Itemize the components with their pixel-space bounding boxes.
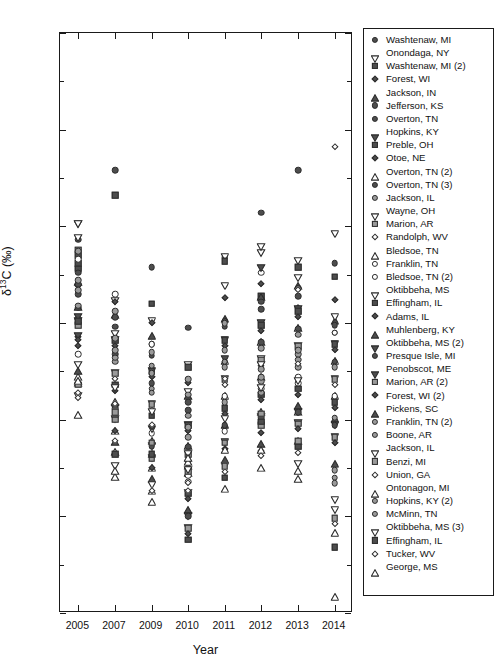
legend-item[interactable]: Marion, AR (2) bbox=[364, 376, 495, 389]
data-point bbox=[74, 228, 83, 237]
legend-marker bbox=[364, 376, 386, 389]
data-point bbox=[331, 467, 338, 474]
marker-triangle-down-icon bbox=[371, 444, 379, 452]
legend-item[interactable]: Tucker, WV bbox=[364, 547, 495, 560]
data-point bbox=[257, 458, 266, 467]
legend-item[interactable]: Benzi, MI bbox=[364, 455, 495, 468]
y-tick-major bbox=[60, 420, 66, 421]
legend-marker bbox=[364, 244, 386, 257]
y-tick-major bbox=[60, 226, 66, 227]
marker-triangle-down-icon bbox=[371, 339, 379, 347]
data-point bbox=[112, 314, 119, 321]
legend-item[interactable]: Randolph, WV bbox=[364, 231, 495, 244]
marker-triangle-up-icon bbox=[371, 563, 379, 571]
legend-label: Jefferson, KS bbox=[386, 101, 443, 111]
legend-label: Muhlenberg, KY bbox=[386, 325, 455, 335]
marker-square-icon bbox=[372, 379, 378, 385]
legend-item[interactable]: Washtenaw, MI bbox=[364, 33, 495, 46]
legend-item[interactable]: Forest, WI (2) bbox=[364, 389, 495, 402]
legend-item[interactable]: Washtenaw, MI (2) bbox=[364, 59, 495, 72]
legend-marker bbox=[364, 46, 386, 59]
legend-item[interactable]: Pickens, SC bbox=[364, 402, 495, 415]
data-point bbox=[331, 322, 338, 329]
data-point bbox=[184, 448, 193, 457]
y-tick-minor bbox=[60, 565, 64, 566]
legend-item[interactable]: Franklin, TN (2) bbox=[364, 415, 495, 428]
legend-item[interactable]: Presque Isle, MI bbox=[364, 349, 495, 362]
legend-marker bbox=[364, 165, 386, 178]
marker-circle-icon bbox=[372, 181, 378, 187]
data-point bbox=[185, 536, 192, 543]
legend-item[interactable]: Oktibbeha, MS (2) bbox=[364, 336, 495, 349]
legend-item[interactable]: McMinn, TN bbox=[364, 507, 495, 520]
data-point bbox=[257, 379, 266, 388]
legend-item[interactable]: Jackson, IL bbox=[364, 191, 495, 204]
legend-marker bbox=[364, 191, 386, 204]
y-axis-title-delta: δ bbox=[0, 289, 14, 296]
legend-item[interactable]: Effingham, IL bbox=[364, 534, 495, 547]
legend-item[interactable]: Oktibbeha, MS bbox=[364, 283, 495, 296]
legend-item[interactable]: Marion, AR bbox=[364, 218, 495, 231]
legend-item[interactable]: Adams, IL bbox=[364, 310, 495, 323]
legend-item[interactable]: Muhlenberg, KY bbox=[364, 323, 495, 336]
data-point bbox=[75, 277, 82, 284]
marker-triangle-down-icon bbox=[371, 207, 379, 215]
legend-item[interactable]: Bledsoe, TN bbox=[364, 244, 495, 257]
legend-item[interactable]: Boone, AR bbox=[364, 428, 495, 441]
legend-item[interactable]: Oktibbeha, MS (3) bbox=[364, 521, 495, 534]
x-tick-top bbox=[78, 33, 79, 39]
legend-label: Ontonagon, MI bbox=[386, 483, 449, 493]
data-point bbox=[221, 276, 230, 285]
y-tick-major-right bbox=[345, 323, 351, 324]
legend-item[interactable]: Overton, TN bbox=[364, 112, 495, 125]
x-tick-top bbox=[225, 33, 226, 39]
legend-item[interactable]: Hopkins, KY (2) bbox=[364, 494, 495, 507]
data-point bbox=[75, 248, 82, 255]
legend-label: Wayne, OH bbox=[386, 206, 435, 216]
legend-label: Effingham, IL bbox=[386, 298, 442, 308]
legend-item[interactable]: George, MS bbox=[364, 560, 495, 573]
legend-label: Overton, TN (3) bbox=[386, 180, 452, 190]
legend-marker bbox=[364, 534, 386, 547]
legend-item[interactable]: Wayne, OH bbox=[364, 204, 495, 217]
y-axis-title-superscript: 13 bbox=[0, 280, 8, 289]
data-point bbox=[185, 325, 192, 332]
legend-item[interactable]: Jefferson, KS bbox=[364, 99, 495, 112]
legend-label: Preble, OH bbox=[386, 140, 433, 150]
data-point bbox=[147, 493, 156, 502]
legend-item[interactable]: Onondaga, NY bbox=[364, 46, 495, 59]
legend-item[interactable]: Otoe, NE bbox=[364, 152, 495, 165]
legend-item[interactable]: Penobscot, ME bbox=[364, 363, 495, 376]
data-point bbox=[222, 358, 229, 365]
legend-item[interactable]: Overton, TN (2) bbox=[364, 165, 495, 178]
x-tick bbox=[78, 605, 79, 611]
legend-item[interactable]: Effingham, IL bbox=[364, 297, 495, 310]
data-point bbox=[258, 306, 265, 313]
legend-item[interactable]: Forest, WI bbox=[364, 73, 495, 86]
legend-item[interactable]: Franklin, TN bbox=[364, 257, 495, 270]
x-tick-top bbox=[152, 33, 153, 39]
data-point bbox=[111, 462, 120, 471]
data-point bbox=[258, 411, 265, 418]
data-point bbox=[74, 371, 83, 380]
data-point bbox=[331, 329, 338, 336]
legend-item[interactable]: Bledsoe, TN (2) bbox=[364, 270, 495, 283]
data-point bbox=[221, 247, 230, 256]
marker-circle-icon bbox=[372, 37, 378, 43]
legend-item[interactable]: Ontonagon, MI bbox=[364, 481, 495, 494]
y-tick-major bbox=[60, 613, 66, 614]
legend-item[interactable]: Jackson, IL bbox=[364, 442, 495, 455]
y-axis-title-rest: C (‰) bbox=[0, 246, 14, 279]
legend-item[interactable]: Overton, TN (3) bbox=[364, 178, 495, 191]
legend-marker bbox=[364, 560, 386, 573]
legend-item[interactable]: Preble, OH bbox=[364, 138, 495, 151]
legend-item[interactable]: Union, GA bbox=[364, 468, 495, 481]
legend-item[interactable]: Hopkins, KY bbox=[364, 125, 495, 138]
data-point bbox=[258, 366, 265, 373]
data-point bbox=[295, 167, 302, 174]
data-point bbox=[75, 318, 82, 325]
marker-circle-icon bbox=[372, 102, 378, 108]
x-tick-label: 2009 bbox=[139, 619, 162, 631]
legend-item[interactable]: Jackson, IN bbox=[364, 86, 495, 99]
data-point bbox=[331, 544, 338, 551]
